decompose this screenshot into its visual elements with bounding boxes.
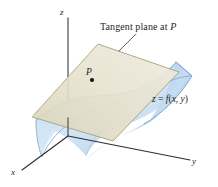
tangent-plane-label-point: P [170, 21, 176, 32]
point-p-label: P [86, 68, 92, 78]
z-axis-label: z [60, 8, 64, 17]
x-axis-label: x [11, 168, 15, 177]
point-p-marker [90, 78, 94, 82]
tangent-plane-label-text: Tangent plane at [100, 21, 170, 32]
surface-eq-close-paren: ) [185, 94, 188, 104]
surface-eq-equals: = [156, 94, 166, 104]
surface-equation-label: z = f(x, y) [152, 95, 188, 105]
y-axis-label: y [192, 157, 196, 166]
tangent-plane-leader-line [119, 34, 136, 51]
tangent-plane-label: Tangent plane at P [100, 22, 176, 32]
tangent-plane-figure: z x y P Tangent plane at P z = f(x, y) [0, 0, 218, 187]
